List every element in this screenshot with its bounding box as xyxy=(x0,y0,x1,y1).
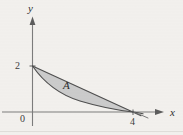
y-axis-arrowhead xyxy=(30,17,36,26)
origin-label: 0 xyxy=(20,114,25,124)
x-axis-label: x xyxy=(170,107,175,118)
region-label-a: A xyxy=(63,80,70,91)
coordinate-plot xyxy=(0,0,183,135)
upper-boundary-line xyxy=(33,66,142,116)
x-tick-label-4: 4 xyxy=(130,117,135,127)
y-axis-label: y xyxy=(28,3,33,14)
x-axis-arrowhead xyxy=(155,109,164,115)
y-tick-label-2: 2 xyxy=(15,61,20,71)
scan-artifact-line xyxy=(0,131,183,132)
